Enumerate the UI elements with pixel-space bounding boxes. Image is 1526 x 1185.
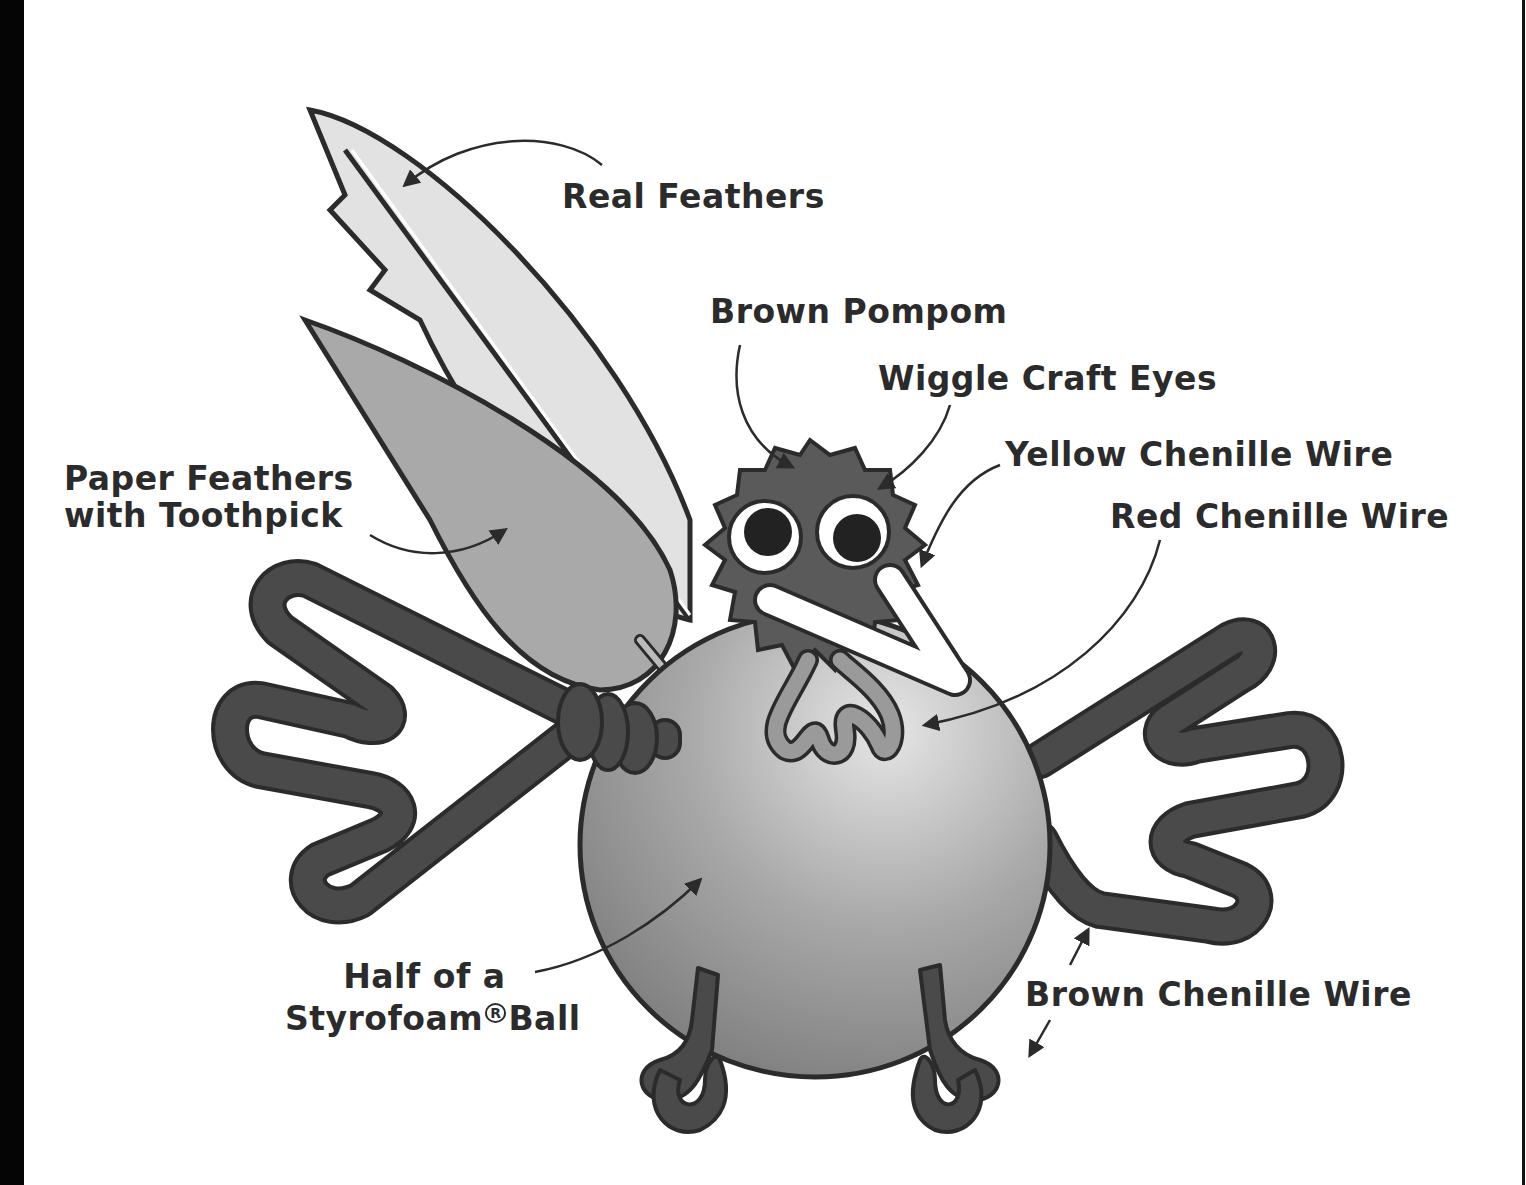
label-styrofoam-line2: StyrofoamRBall [285, 995, 581, 1037]
label-brown-pompom: Brown Pompom [710, 293, 1008, 330]
label-styrofoam-ball: Ball [508, 999, 580, 1038]
registered-mark-icon: R [485, 1003, 506, 1023]
label-real-feathers: Real Feathers [562, 178, 825, 215]
label-paper-feathers-line1: Paper Feathers [64, 460, 354, 497]
label-styrofoam-word: Styrofoam [285, 999, 483, 1038]
styrofoam-body [580, 613, 1050, 1077]
label-paper-feathers: Paper Feathers with Toothpick [64, 460, 354, 534]
label-yellow-chenille: Yellow Chenille Wire [1005, 436, 1393, 473]
label-styrofoam-line1: Half of a [285, 958, 581, 995]
right-wing-chenille [1040, 636, 1325, 926]
label-red-chenille: Red Chenille Wire [1110, 498, 1449, 535]
label-wiggle-eyes: Wiggle Craft Eyes [878, 360, 1217, 397]
label-paper-feathers-line2: with Toothpick [64, 497, 354, 534]
label-styrofoam: Half of a StyrofoamRBall [285, 958, 581, 1037]
label-brown-chenille: Brown Chenille Wire [1025, 976, 1412, 1013]
